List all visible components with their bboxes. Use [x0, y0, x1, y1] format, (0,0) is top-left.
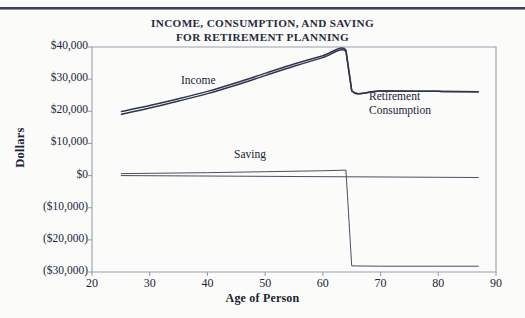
chart-figure: INCOME, CONSUMPTION, AND SAVING FOR RETI…: [0, 0, 525, 318]
series-line-zero-line: [121, 176, 479, 178]
plot-area: [0, 0, 525, 318]
series-line-consumption: [121, 50, 479, 115]
plot-frame: [92, 47, 496, 272]
series-line-saving: [121, 170, 479, 266]
